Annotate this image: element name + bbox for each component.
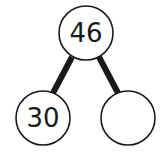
part-circle-left: 30	[16, 91, 70, 145]
connector-left	[53, 57, 72, 93]
connector-right	[99, 57, 118, 93]
whole-circle: 46	[59, 6, 113, 60]
part-left-value: 30	[26, 103, 59, 133]
number-bond-diagram: 46 30	[0, 0, 164, 154]
whole-value: 46	[69, 18, 102, 48]
part-circle-right[interactable]	[101, 91, 155, 145]
